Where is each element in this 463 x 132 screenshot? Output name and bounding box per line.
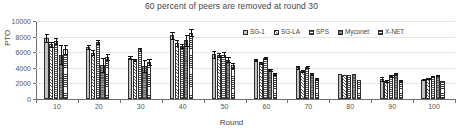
- bar: [105, 57, 109, 99]
- bar: [86, 47, 90, 99]
- error-bar-cap: [170, 39, 174, 40]
- error-bar-cap: [45, 34, 49, 35]
- error-bar-cap: [96, 40, 100, 41]
- bar: [133, 60, 137, 99]
- error-bar-cap: [128, 56, 132, 57]
- legend-swatch-icon: [274, 30, 279, 35]
- bar: [128, 58, 132, 99]
- x-axis-tick-label: 20: [95, 103, 103, 110]
- bar: [305, 67, 309, 99]
- bar: [389, 76, 393, 99]
- bar: [431, 76, 435, 99]
- error-bar-cap: [380, 77, 384, 78]
- bar: [63, 49, 67, 99]
- bar: [91, 53, 95, 99]
- bar: [421, 80, 425, 100]
- error-bar: [144, 60, 145, 72]
- legend-item-myconet[interactable]: Myconet: [338, 29, 369, 35]
- error-bar-cap: [87, 45, 91, 46]
- error-bar-cap: [296, 66, 300, 67]
- x-axis-tick: [455, 99, 456, 103]
- bar: [357, 80, 361, 99]
- error-bar-cap: [310, 73, 314, 74]
- error-bar: [186, 35, 187, 46]
- error-bar-cap: [217, 53, 221, 54]
- bar: [399, 81, 403, 99]
- x-axis-title: Round: [0, 118, 463, 127]
- legend-label: SG-1: [250, 29, 265, 35]
- legend-label: SG-LA: [281, 29, 300, 35]
- error-bar-cap: [87, 49, 91, 50]
- bar-group: [413, 21, 455, 99]
- bar: [259, 63, 263, 99]
- error-bar-cap: [175, 40, 179, 41]
- legend-item-sg-1[interactable]: SG-1: [243, 29, 265, 35]
- legend-swatch-icon: [378, 30, 383, 35]
- x-axis-tick-label: 80: [346, 103, 354, 110]
- bar: [296, 67, 300, 99]
- error-bar-cap: [147, 59, 151, 60]
- error-bar-cap: [222, 57, 226, 58]
- bar: [184, 40, 188, 99]
- error-bar: [172, 32, 173, 40]
- bar: [44, 38, 48, 99]
- error-bar-cap: [394, 73, 398, 74]
- x-axis-tick: [162, 99, 163, 103]
- chart-container: 60 percent of peers are removed at round…: [0, 0, 463, 132]
- error-bar-cap: [54, 44, 58, 45]
- error-bar-cap: [64, 54, 68, 55]
- error-bar-cap: [254, 61, 258, 62]
- error-bar: [191, 29, 192, 36]
- error-bar-cap: [59, 45, 63, 46]
- y-axis-tick-label: 0: [27, 96, 31, 103]
- error-bar-cap: [268, 71, 272, 72]
- bar: [54, 41, 58, 99]
- bar: [273, 74, 277, 99]
- error-bar-cap: [96, 44, 100, 45]
- chart-title: 60 percent of peers are removed at round…: [0, 1, 463, 11]
- error-bar-cap: [106, 60, 110, 61]
- legend-swatch-icon: [338, 30, 343, 35]
- error-bar-cap: [310, 75, 314, 76]
- x-axis-tick: [120, 99, 121, 103]
- error-bar-cap: [231, 63, 235, 64]
- error-bar-cap: [399, 82, 403, 83]
- x-axis-tick-label: 60: [263, 103, 271, 110]
- bar: [310, 74, 314, 99]
- legend-swatch-icon: [309, 30, 314, 35]
- error-bar-cap: [226, 62, 230, 63]
- legend-item-sg-la[interactable]: SG-LA: [274, 29, 300, 35]
- error-bar-cap: [170, 32, 174, 33]
- x-axis-tick: [246, 99, 247, 103]
- error-bar-cap: [64, 45, 68, 46]
- error-bar-cap: [222, 52, 226, 53]
- bar: [231, 65, 235, 99]
- x-axis-tick: [329, 99, 330, 103]
- x-axis-tick: [413, 99, 414, 103]
- legend-item-sps[interactable]: SPS: [309, 29, 329, 35]
- error-bar-cap: [254, 59, 258, 60]
- error-bar-cap: [147, 65, 151, 66]
- error-bar-cap: [273, 75, 277, 76]
- x-axis-tick: [204, 99, 205, 103]
- bar: [254, 60, 258, 99]
- legend-item-x-net[interactable]: X-NET: [378, 29, 404, 35]
- bar: [300, 71, 304, 99]
- legend-label: X-NET: [385, 29, 404, 35]
- legend-label: Myconet: [345, 29, 369, 35]
- error-bar-cap: [189, 29, 193, 30]
- bar: [180, 46, 184, 99]
- error-bar: [65, 45, 66, 54]
- bar: [138, 49, 142, 99]
- x-axis-tick-label: 70: [304, 103, 312, 110]
- bar: [212, 54, 216, 99]
- legend-swatch-icon: [243, 30, 248, 35]
- x-axis-tick-label: 30: [137, 103, 145, 110]
- error-bar: [103, 58, 104, 72]
- error-bar-cap: [45, 42, 49, 43]
- bar: [426, 78, 430, 99]
- bar: [352, 74, 356, 99]
- error-bar-cap: [106, 54, 110, 55]
- bar: [189, 33, 193, 99]
- x-axis-tick-label: 50: [221, 103, 229, 110]
